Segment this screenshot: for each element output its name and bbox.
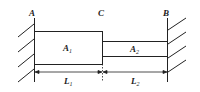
- label-length-2: L2: [130, 76, 140, 87]
- label-a: A: [28, 8, 35, 18]
- stepped-bar-diagram: A C B A1 A2 L1 L2: [0, 0, 200, 92]
- dimension-l1: [35, 71, 102, 74]
- wall-b: [168, 18, 187, 82]
- label-c: C: [98, 8, 105, 18]
- label-area-2: A2: [129, 44, 139, 55]
- label-b: B: [162, 8, 169, 18]
- dimension-l2: [103, 71, 167, 74]
- label-area-1: A1: [62, 43, 72, 54]
- label-length-1: L1: [63, 76, 73, 87]
- wall-a: [18, 18, 35, 82]
